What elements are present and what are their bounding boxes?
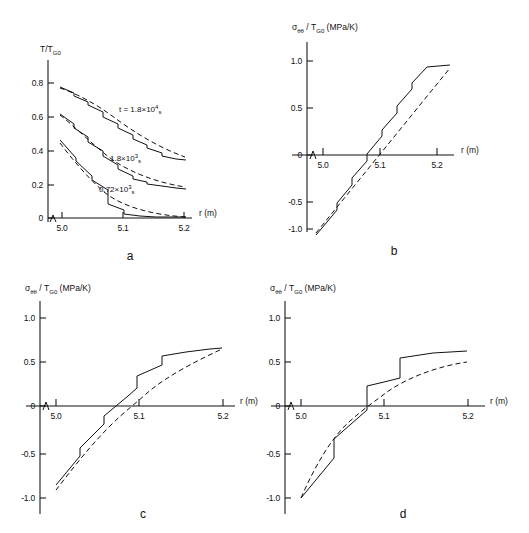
y-tick-label-d-1: 0.5 bbox=[269, 357, 281, 367]
x-tick-label-a-0: 5.0 bbox=[56, 223, 68, 233]
y-tick-label-b-4: -1.0 bbox=[288, 224, 302, 234]
panel-letter-c: c bbox=[140, 507, 146, 521]
panel-b-plot: 1.0 0.5 0 -0.5 -1.0 5.0 5.1 5.2 σθθ / TG… bbox=[264, 0, 529, 270]
curve-label-a-3-suffix: s bbox=[131, 189, 134, 195]
panel-d: 1.0 0.5 0 -0.5 -1.0 5.0 5.1 5.2 σθθ / TG… bbox=[235, 266, 529, 533]
x-tick-label-a-1: 5.1 bbox=[117, 223, 129, 233]
x-tick-label-c-0: 5.0 bbox=[50, 411, 62, 421]
curve-label-a-2-suffix: s bbox=[138, 158, 141, 164]
y-axis-label-d-div: / T bbox=[282, 283, 294, 293]
curve-d-stepped bbox=[301, 351, 467, 498]
curve-label-a-3-prefix: 0.72×10 bbox=[99, 185, 129, 194]
y-axis-label-a-main: T/T bbox=[40, 44, 53, 54]
y-axis-label-a-sub: G0 bbox=[53, 50, 62, 56]
y-tick-label-b-3: -0.5 bbox=[288, 197, 302, 207]
y-axis-label-c-div: / T bbox=[37, 283, 49, 293]
panel-letter-d: d bbox=[400, 507, 407, 521]
panel-a-plot: 0.8 0.6 0.4 0.2 0 5.0 5.1 5.2 T/TG0 r (m… bbox=[0, 0, 265, 270]
y-tick-label-c-0: 1.0 bbox=[24, 313, 36, 323]
y-tick-label-a-4: 0 bbox=[38, 213, 43, 223]
y-tick-label-b-2: 0 bbox=[297, 150, 302, 160]
curve-a-2-dashed bbox=[60, 115, 185, 187]
y-axis-label-b-units: (MPa/K) bbox=[327, 22, 358, 32]
x-tick-label-d-1: 5.1 bbox=[378, 411, 390, 421]
curve-label-a-1: t = 1.8×104s bbox=[119, 104, 161, 116]
curve-label-a-3: 0.72×103s bbox=[99, 184, 134, 196]
y-tick-label-b-0: 1.0 bbox=[291, 56, 303, 66]
y-tick-label-c-1: 0.5 bbox=[24, 357, 36, 367]
x-tick-label-b-0: 5.0 bbox=[317, 160, 329, 170]
x-axis-label-d: r (m) bbox=[490, 396, 508, 406]
y-axis-label-c-units: (MPa/K) bbox=[60, 283, 91, 293]
panel-c-plot: 1.0 0.5 0 -0.5 -1.0 5.0 5.1 5.2 σθθ / TG… bbox=[0, 266, 265, 533]
y-tick-label-b-1: 0.5 bbox=[291, 103, 303, 113]
y-axis-label-b: σθθ / TG0 (MPa/K) bbox=[292, 22, 358, 34]
y-axis-label-d-units: (MPa/K) bbox=[305, 283, 336, 293]
y-tick-label-d-4: -1.0 bbox=[266, 493, 280, 503]
y-tick-label-d-2: 0 bbox=[275, 401, 280, 411]
y-tick-label-c-2: 0 bbox=[30, 401, 35, 411]
x-axis-label-b: r (m) bbox=[461, 145, 479, 155]
x-tick-label-b-2: 5.2 bbox=[431, 160, 443, 170]
curve-label-a-2-prefix: 1.8×10 bbox=[110, 154, 135, 163]
y-tick-label-d-3: -0.5 bbox=[266, 449, 280, 459]
x-tick-label-b-1: 5.1 bbox=[374, 160, 386, 170]
curve-a-2-stepped bbox=[60, 114, 186, 189]
figure-container: 0.8 0.6 0.4 0.2 0 5.0 5.1 5.2 T/TG0 r (m… bbox=[0, 0, 529, 533]
y-axis-label-c: σθθ / TG0 (MPa/K) bbox=[25, 283, 91, 295]
curve-b-dashed bbox=[316, 68, 450, 233]
y-tick-label-a-1: 0.6 bbox=[32, 112, 44, 122]
y-axis-label-d: σθθ / TG0 (MPa/K) bbox=[270, 283, 336, 295]
panel-c: 1.0 0.5 0 -0.5 -1.0 5.0 5.1 5.2 σθθ / TG… bbox=[0, 266, 265, 533]
x-tick-label-c-1: 5.1 bbox=[133, 411, 145, 421]
y-tick-label-d-0: 1.0 bbox=[269, 313, 281, 323]
panel-a: 0.8 0.6 0.4 0.2 0 5.0 5.1 5.2 T/TG0 r (m… bbox=[0, 0, 265, 270]
panel-letter-b: b bbox=[391, 244, 398, 258]
panel-b: 1.0 0.5 0 -0.5 -1.0 5.0 5.1 5.2 σθθ / TG… bbox=[264, 0, 529, 270]
x-axis-label-a: r (m) bbox=[199, 208, 217, 218]
x-tick-label-c-2: 5.2 bbox=[217, 411, 229, 421]
panel-d-plot: 1.0 0.5 0 -0.5 -1.0 5.0 5.1 5.2 σθθ / TG… bbox=[235, 266, 529, 533]
y-tick-label-c-4: -1.0 bbox=[21, 493, 35, 503]
panel-letter-a: a bbox=[127, 249, 134, 263]
x-tick-label-d-0: 5.0 bbox=[295, 411, 307, 421]
x-tick-label-a-2: 5.2 bbox=[178, 223, 190, 233]
y-axis-label-a: T/TG0 bbox=[40, 44, 61, 56]
y-tick-label-a-0: 0.8 bbox=[32, 78, 44, 88]
y-axis-label-b-div: / T bbox=[304, 22, 316, 32]
curve-label-a-2: 1.8×103s bbox=[110, 153, 141, 165]
y-tick-label-a-2: 0.4 bbox=[32, 146, 44, 156]
y-tick-label-a-3: 0.2 bbox=[32, 180, 44, 190]
curve-a-3-stepped bbox=[60, 140, 186, 217]
x-tick-label-d-2: 5.2 bbox=[462, 411, 474, 421]
curve-label-a-1-suffix: s bbox=[158, 109, 161, 115]
y-tick-label-c-3: -0.5 bbox=[21, 449, 35, 459]
curve-label-a-1-prefix: t = 1.8×10 bbox=[119, 105, 156, 114]
